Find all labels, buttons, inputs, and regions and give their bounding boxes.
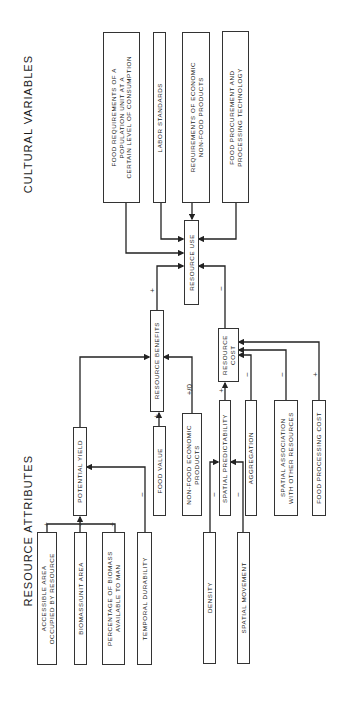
percentage-biomass-label: PERCENTAGE OF BIOMASS AVAILABLE TO MAN xyxy=(106,551,121,646)
resource-use-box: RESOURCE USE xyxy=(184,220,199,305)
density-label: DENSITY xyxy=(206,582,214,613)
potential-yield-box: POTENTIAL YIELD xyxy=(73,427,87,516)
sign-predictability: + xyxy=(217,388,226,393)
spatial-movement-box: SPATIAL MOVEMENT xyxy=(237,532,250,664)
accessible-area-label: ACCESSIBLE AREA OCCUPIED BY RESOURCE xyxy=(40,553,55,644)
food-procurement-label: FOOD PROCUREMENT AND PROCESSING TECHNOLO… xyxy=(228,68,243,167)
food-processing-cost-label: FOOD PROCESSING COST xyxy=(315,412,323,504)
food-requirements-box: FOOD REQUIREMENTS OF A POPULATION UNIT A… xyxy=(103,32,140,203)
biomass-unit-area-label: BIOMASS/UNIT AREA xyxy=(77,562,85,635)
biomass-unit-area-box: BIOMASS/UNIT AREA xyxy=(74,532,87,665)
resource-benefits-box: RESOURCE BENEFITS xyxy=(150,310,164,412)
percentage-biomass-box: PERCENTAGE OF BIOMASS AVAILABLE TO MAN xyxy=(102,532,125,665)
food-value-label: FOOD VALUE xyxy=(156,448,164,493)
spatial-predictability-label: SPATIAL PREDICTABILITY xyxy=(221,414,229,503)
labor-standards-label: LABOR STANDARDS xyxy=(156,83,164,152)
sign-biomass: + xyxy=(76,522,85,527)
cultural-variables-title: CULTURAL VARIABLES xyxy=(22,55,34,193)
sign-movement: − xyxy=(234,492,243,497)
food-requirements-label: FOOD REQUIREMENTS OF A POPULATION UNIT A… xyxy=(110,56,133,179)
spatial-movement-label: SPATIAL MOVEMENT xyxy=(240,562,248,633)
non-food-products-label: NON-FOOD ECONOMIC PRODUCTS xyxy=(185,425,200,505)
sign-aggregation: − xyxy=(243,372,252,377)
spatial-association-label: SPATIAL ASSOCIATION WITH OTHER RESOURCES xyxy=(279,412,294,504)
sign-percentage: + xyxy=(108,522,117,527)
aggregation-box: AGGREGATION xyxy=(245,400,257,516)
resource-use-label: RESOURCE USE xyxy=(188,234,196,291)
spatial-association-box: SPATIAL ASSOCIATION WITH OTHER RESOURCES xyxy=(274,400,298,516)
potential-yield-label: POTENTIAL YIELD xyxy=(76,440,84,503)
density-box: DENSITY xyxy=(203,532,216,664)
spatial-predictability-box: SPATIAL PREDICTABILITY xyxy=(219,400,231,516)
labor-standards-box: LABOR STANDARDS xyxy=(153,32,166,203)
food-value-box: FOOD VALUE xyxy=(153,426,166,516)
resource-cost-box: RESOURCE COST xyxy=(218,328,239,382)
aggregation-label: AGGREGATION xyxy=(247,432,255,484)
resource-attributes-title: RESOURCE ATTRIBUTES xyxy=(22,455,34,606)
sign-cost-use: − xyxy=(217,286,226,291)
resource-cost-label: RESOURCE COST xyxy=(221,335,236,375)
economic-requirements-label: REQUIREMENTS OF ECONOMIC NON-FOOD PRODUC… xyxy=(189,62,204,172)
food-processing-cost-box: FOOD PROCESSING COST xyxy=(312,400,326,516)
sign-association: − xyxy=(278,372,287,377)
sign-non-food: +/0 xyxy=(185,384,194,395)
accessible-area-box: ACCESSIBLE AREA OCCUPIED BY RESOURCE xyxy=(37,532,57,665)
economic-requirements-box: REQUIREMENTS OF ECONOMIC NON-FOOD PRODUC… xyxy=(182,32,210,203)
sign-density: − xyxy=(210,492,219,497)
sign-accessible-area: + xyxy=(42,522,51,527)
resource-benefits-label: RESOURCE BENEFITS xyxy=(153,322,161,399)
sign-benefits-use: + xyxy=(148,288,157,293)
sign-processing-cost: + xyxy=(311,372,320,377)
temporal-durability-label: TEMPORAL DURABILITY xyxy=(141,557,149,640)
sign-temporal: − xyxy=(138,492,147,497)
temporal-durability-box: TEMPORAL DURABILITY xyxy=(137,532,152,665)
sign-food-value: + xyxy=(152,414,161,419)
food-procurement-box: FOOD PROCUREMENT AND PROCESSING TECHNOLO… xyxy=(222,31,249,203)
non-food-products-box: NON-FOOD ECONOMIC PRODUCTS xyxy=(182,413,202,516)
